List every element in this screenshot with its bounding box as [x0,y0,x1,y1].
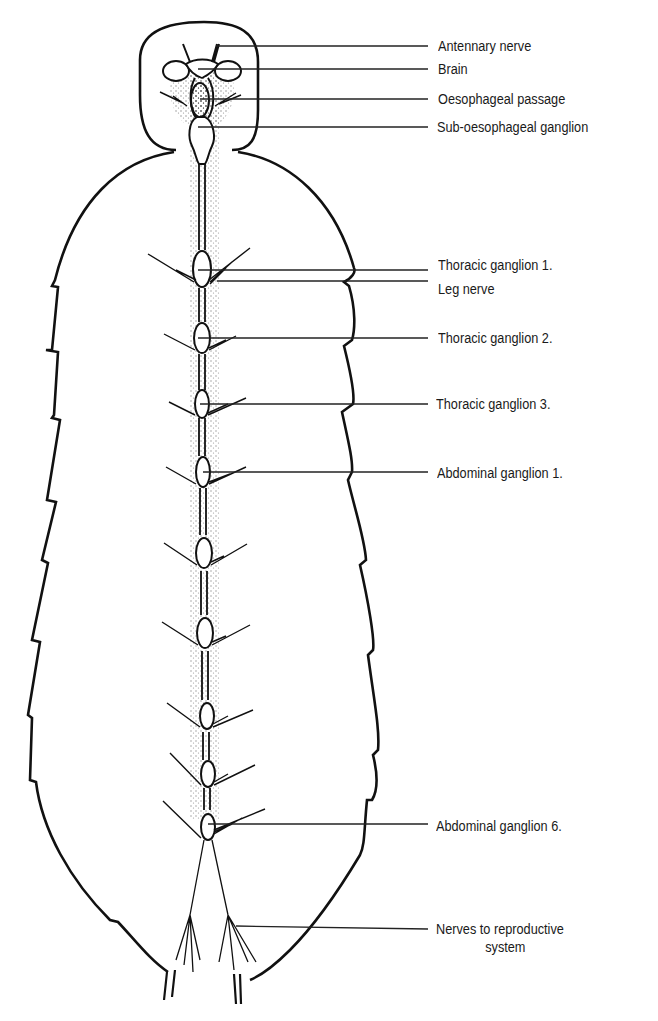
label-nerves-to-reproductive-system: Nerves to reproductive system [436,920,600,956]
label-sub-oesophageal-ganglion: Sub-oesophageal ganglion [437,118,588,136]
label-abdominal-ganglion-1: Abdominal ganglion 1. [437,464,563,482]
label-thoracic-ganglion-2: Thoracic ganglion 2. [438,329,552,347]
label-thoracic-ganglion-1: Thoracic ganglion 1. [438,256,552,274]
body-outline-right [238,152,378,980]
cercus-right [234,974,241,1004]
label-line-2: system [436,938,600,956]
reproductive-nerves [176,840,256,972]
nervous-system-diagram: Antennary nerve Brain Oesophageal passag… [0,0,658,1021]
label-antennary-nerve: Antennary nerve [438,37,531,55]
label-line-1: Nerves to reproductive [436,920,564,937]
label-brain: Brain [438,60,468,78]
leader-lines [198,46,428,929]
label-thoracic-ganglion-3: Thoracic ganglion 3. [436,395,550,413]
cercus-left [164,970,175,1000]
label-leg-nerve: Leg nerve [438,280,495,298]
label-oesophageal-passage: Oesophageal passage [438,90,565,108]
body-outline-left [28,152,174,972]
insect-body-illustration [0,0,658,1021]
label-abdominal-ganglion-6: Abdominal ganglion 6. [436,817,562,835]
